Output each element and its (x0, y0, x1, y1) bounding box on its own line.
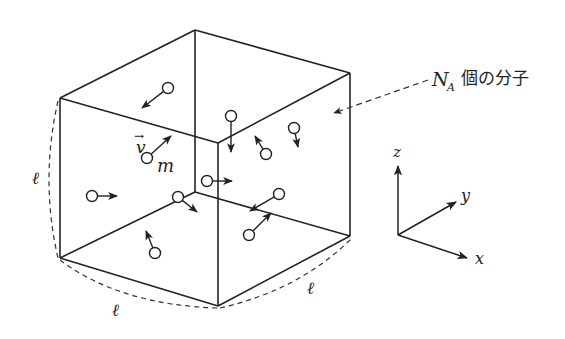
edge-length-label-bottom-left: ℓ (112, 302, 119, 319)
molecule (87, 191, 118, 202)
molecule (244, 213, 272, 241)
molecule-circle (173, 192, 184, 203)
molecule (289, 123, 300, 148)
axes (398, 166, 467, 258)
molecule-circle (150, 248, 161, 259)
cube-edge-top-back-left (60, 30, 195, 98)
molecule-circle (261, 149, 272, 160)
molecule (250, 189, 285, 212)
edge-length-label-left: ℓ (32, 170, 39, 187)
cube (60, 30, 350, 306)
velocity-label: v (136, 139, 146, 156)
molecule (255, 136, 272, 160)
dimension-curves (49, 80, 428, 308)
velocity-arrow-icon (142, 91, 164, 108)
axis-label-x: x (475, 251, 484, 267)
cube-edge-bottom-front-left (60, 258, 218, 306)
velocity-arrow-icon (255, 136, 263, 149)
molecule (146, 231, 161, 259)
edge-length-label-bottom-right: ℓ (307, 280, 314, 297)
molecule (226, 111, 237, 153)
dimension-curve-front-left (60, 260, 218, 308)
molecule-circle (289, 123, 300, 134)
molecule-circle (244, 230, 255, 241)
velocity-arrow-icon (250, 197, 274, 211)
molecule (142, 83, 174, 109)
dimension-curve-front-right (220, 238, 352, 308)
axis-y (398, 202, 456, 235)
axis-label-z: z (393, 145, 401, 160)
cube-edge-top-back-right (195, 30, 350, 73)
velocity-arrow-icon (253, 213, 271, 231)
dimension-curve-left (49, 101, 58, 258)
molecule (202, 176, 233, 187)
molecule-count-subscript: A (447, 82, 455, 93)
molecule-circle (87, 191, 98, 202)
axis-label-y: y (461, 188, 470, 204)
molecule-circle (274, 189, 285, 200)
cube-edge-bottom-front-right (218, 236, 350, 306)
velocity-arrow-icon (146, 231, 153, 248)
molecule-circle (163, 83, 174, 94)
molecule-count-text: 個の分子 (461, 70, 529, 87)
molecule-circle (226, 111, 237, 122)
molecule (173, 192, 198, 213)
molecules (87, 83, 300, 259)
axis-x (398, 235, 467, 258)
velocity-arrow-icon (295, 133, 298, 147)
ideal-gas-cube-diagram (0, 0, 565, 339)
molecule-circle (202, 176, 213, 187)
velocity-arrow-icon (151, 136, 171, 154)
leader-line (334, 80, 428, 113)
mass-label: m (157, 157, 174, 175)
velocity-arrow-icon (182, 200, 197, 212)
cube-edge-top-front-right (218, 73, 350, 143)
